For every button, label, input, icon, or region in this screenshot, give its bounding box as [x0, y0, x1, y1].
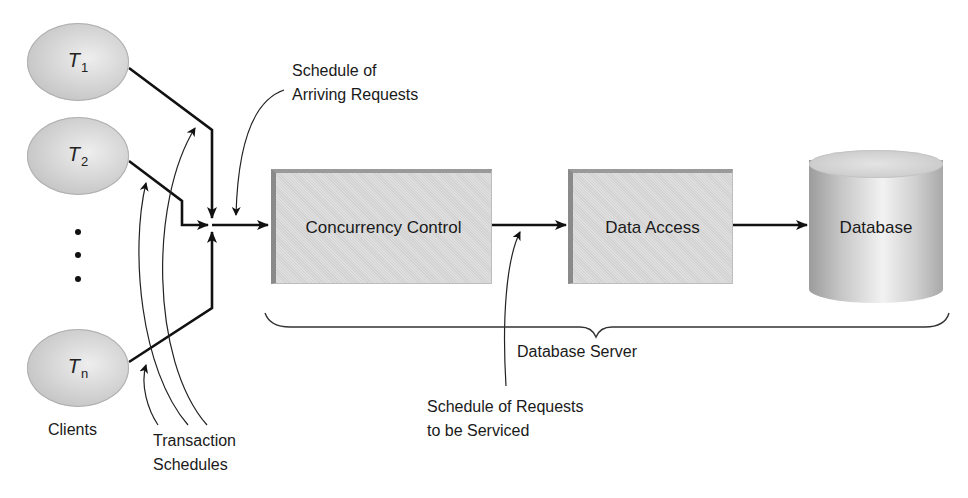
- requests-serviced-label: Schedule of Requests to be Serviced: [427, 395, 584, 443]
- clients-label: Clients: [48, 418, 97, 442]
- concurrency-control-label: Concurrency Control: [306, 218, 462, 238]
- schedule-curve-t1: [163, 128, 207, 425]
- client-t1: T1: [27, 23, 129, 101]
- data-access-label: Data Access: [605, 218, 700, 238]
- ellipsis-dot: [75, 229, 81, 235]
- arriving-requests-label: Schedule of Arriving Requests: [292, 59, 418, 107]
- client-t2: T2: [27, 117, 129, 195]
- ellipsis-dot: [75, 276, 81, 282]
- schedule-curve-t2: [139, 183, 188, 425]
- schedule-curve-tn: [144, 365, 158, 425]
- data-access-box: Data Access: [568, 169, 733, 284]
- ellipsis-dot: [75, 252, 81, 258]
- database-cylinder-top: [809, 150, 943, 178]
- client-tn-label: Tn: [68, 355, 88, 381]
- diagram-canvas: T1 T2 Tn Clients Transaction Schedules S…: [0, 0, 968, 498]
- concurrency-control-box: Concurrency Control: [271, 169, 492, 284]
- client-t2-label: T2: [68, 143, 88, 169]
- transaction-schedules-label: Transaction Schedules: [153, 429, 236, 477]
- client-t1-label: T1: [68, 49, 88, 75]
- client-tn: Tn: [27, 329, 129, 407]
- database-server-brace: [265, 313, 949, 337]
- database-server-label: Database Server: [517, 340, 637, 364]
- database-label: Database: [809, 218, 943, 238]
